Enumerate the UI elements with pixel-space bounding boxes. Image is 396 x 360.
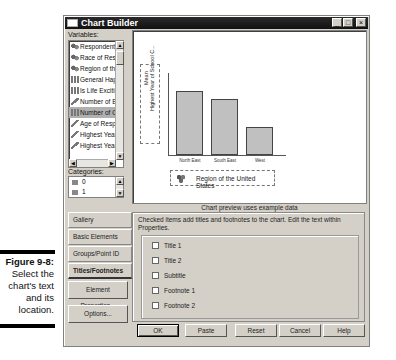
checkbox-group: Title 1 Title 2 Subtitle Footnote 1 Foot… [141,235,359,319]
tab-gallery[interactable]: Gallery [68,212,132,228]
x-tick-label: West [243,158,277,163]
x-axis-label: Region of the United States [196,175,274,189]
ordinal-icon [71,109,79,116]
scale-icon [71,142,79,149]
figure-caption: Figure 9-8: Select the chart's text and … [0,256,54,316]
caption-rule-bottom [0,324,55,328]
caption-line: Select the [0,268,54,280]
checkbox-icon[interactable] [152,302,159,309]
preview-note: Chart preview uses example data [132,204,367,211]
scroll-up-icon[interactable]: ▲ [116,41,124,49]
footnote-1-checkbox[interactable]: Footnote 1 [152,287,195,294]
scale-icon [71,120,79,127]
checkbox-icon[interactable] [152,257,159,264]
x-axis-line [168,155,286,156]
element-properties-button[interactable]: Element Properties... [68,281,128,299]
variables-label: Variables: [68,31,99,38]
variable-item[interactable]: Number of Br [69,96,117,107]
chart-preview-canvas[interactable]: Mean Highest Year of School C... North E… [132,30,367,204]
variable-item[interactable]: Highest Year [69,129,117,140]
caption-line: location. [0,304,54,316]
panel-description: Checked items add titles and footnotes t… [138,216,360,232]
variable-item[interactable]: Age of Resp [69,118,117,129]
horizontal-scrollbar[interactable]: ◀ ▶ [69,159,116,167]
bar-north-east[interactable] [176,91,203,155]
checkbox-icon[interactable] [152,242,159,249]
ordinal-icon [71,87,79,94]
titles-footnotes-panel: Checked items add titles and footnotes t… [132,212,365,322]
title-2-checkbox[interactable]: Title 2 [152,257,181,264]
bar-west[interactable] [246,127,273,155]
close-button[interactable]: × [356,18,366,27]
scroll-down-icon[interactable]: ▼ [116,152,124,160]
x-tick-label: South East [208,158,242,163]
caption-rule-top [0,250,55,254]
caption-line: chart's text [0,280,54,292]
scale-icon [71,98,79,105]
tab-basic-elements[interactable]: Basic Elements [68,229,132,245]
checkbox-icon[interactable] [152,287,159,294]
bar-south-east[interactable] [211,99,238,155]
tab-groups-point-id[interactable]: Groups/Point ID [68,246,132,262]
variable-item[interactable]: General Hap [69,74,117,85]
scroll-thumb[interactable] [116,51,124,65]
tab-titles-footnotes[interactable]: Titles/Footnotes [68,263,132,279]
nominal-icon [71,43,79,50]
subtitle-checkbox[interactable]: Subtitle [152,272,186,279]
checkbox-icon[interactable] [152,272,159,279]
variable-item[interactable]: Race of Resp [69,52,117,63]
ordinal-icon [71,76,79,83]
scroll-up-icon[interactable]: ▲ [116,177,124,185]
nominal-variable-icon [176,174,186,183]
tab-list: Gallery Basic Elements Groups/Point ID T… [68,212,132,280]
help-button[interactable]: Help [323,324,365,337]
y-axis-label: Mean Highest Year of School C... [143,45,155,111]
variable-item[interactable]: Highest Year [69,140,117,151]
categories-label: Categories: [68,168,104,175]
cancel-button[interactable]: Cancel [279,324,321,337]
paste-button[interactable]: Paste [185,324,227,337]
nominal-icon [71,54,79,61]
nominal-icon [71,65,79,72]
category-swatch-icon [72,180,78,185]
title-1-checkbox[interactable]: Title 1 [152,242,181,249]
ok-button[interactable]: OK [137,324,179,337]
variables-list[interactable]: Respondent' Race of Resp Region of th Ge… [68,40,124,168]
options-button[interactable]: Options... [68,305,128,323]
minimize-button[interactable]: _ [332,18,342,27]
maximize-button[interactable]: □ [343,18,353,27]
window-title: Chart Builder [81,18,138,28]
footnote-2-checkbox[interactable]: Footnote 2 [152,302,195,309]
y-axis-line [168,73,169,155]
page: Figure 9-8: Select the chart's text and … [0,0,396,360]
scroll-down-icon[interactable]: ▼ [116,189,124,197]
chart-builder-dialog: Chart Builder _ □ × Variables: Responden… [63,15,370,347]
figure-number: Figure 9-8: [0,256,54,268]
app-icon [67,19,78,27]
scale-icon [71,131,79,138]
scroll-left-icon[interactable]: ◀ [69,159,77,167]
variable-item-selected[interactable]: Number of C [69,107,117,118]
x-tick-label: North East [173,158,207,163]
variable-item[interactable]: Respondent' [69,41,117,52]
caption-line: and its [0,292,54,304]
categories-list[interactable]: 0 1 ▲ ▼ [68,176,124,198]
category-swatch-icon [72,190,78,195]
variable-item[interactable]: Region of th [69,63,117,74]
reset-button[interactable]: Reset [235,324,277,337]
scroll-right-icon[interactable]: ▶ [108,159,116,167]
variable-item[interactable]: Is Life Excitin [69,85,117,96]
vertical-scrollbar[interactable]: ▲ ▼ [115,41,123,160]
title-bar[interactable]: Chart Builder _ □ × [65,17,368,29]
categories-scrollbar[interactable]: ▲ ▼ [115,177,123,197]
x-axis-drop-zone[interactable]: Region of the United States [170,170,275,186]
